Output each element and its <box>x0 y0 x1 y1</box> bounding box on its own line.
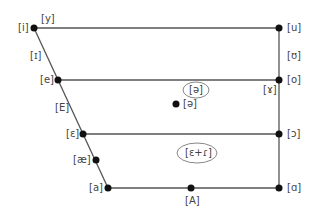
chart-lines <box>34 28 279 188</box>
vowel-label: [ɔ] <box>287 129 300 139</box>
vowel-label: [ɛ+ɾ] <box>185 148 212 158</box>
vowel-label: [æ] <box>73 155 91 165</box>
vowel-label: [ə] <box>183 99 197 109</box>
vowel-point <box>173 101 180 108</box>
vowel-label: [a] <box>89 183 103 193</box>
vowel-label: [ɪ] <box>30 51 42 61</box>
vowel-label: [ə] <box>189 85 203 95</box>
vowel-chart <box>0 0 314 220</box>
vowel-point <box>276 131 283 138</box>
vowel-label: [A] <box>185 196 200 206</box>
vowel-point <box>55 77 62 84</box>
vowel-point <box>80 131 87 138</box>
vowel-point <box>105 185 112 192</box>
vowel-point <box>276 25 283 32</box>
vowel-label: [u] <box>287 23 301 33</box>
vowel-label: [ɛ] <box>66 129 79 139</box>
vowel-label: [y] <box>41 14 55 24</box>
vowel-label: [e] <box>40 75 54 85</box>
vowel-point <box>93 157 100 164</box>
vowel-point <box>276 185 283 192</box>
vowel-label: [ɤ] <box>263 85 277 95</box>
chart-line <box>34 28 108 188</box>
vowel-label: [i] <box>18 23 29 33</box>
vowel-point <box>188 185 195 192</box>
vowel-label: [ʊ] <box>287 51 301 61</box>
vowel-label: [E] <box>55 103 69 113</box>
vowel-label: [ɑ] <box>287 183 301 193</box>
vowel-point <box>31 25 38 32</box>
vowel-point <box>276 77 283 84</box>
vowel-label: [o] <box>287 75 301 85</box>
